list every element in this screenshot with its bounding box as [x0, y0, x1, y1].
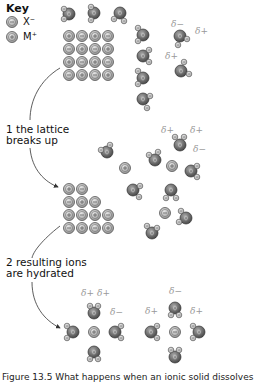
arrow-step1	[30, 148, 58, 187]
key-anion-icon	[7, 17, 18, 28]
anion-icon	[90, 70, 101, 81]
anion-icon	[103, 31, 114, 42]
anion-icon	[77, 210, 88, 221]
anion-icon	[77, 57, 88, 68]
cation-icon	[77, 197, 88, 208]
arrow-step1-to-lattice	[30, 68, 60, 120]
delta-labels-cation: δ+ δ+ δ−	[81, 288, 123, 317]
svg-text:δ+: δ+	[81, 288, 94, 298]
svg-text:δ+: δ+	[165, 51, 178, 61]
cation-icon	[64, 31, 75, 42]
cation-icon	[77, 223, 88, 234]
key-cation-label: M⁺	[23, 31, 37, 42]
svg-text:δ−: δ−	[110, 307, 123, 317]
anion-icon	[103, 57, 114, 68]
cation-icon	[103, 223, 114, 234]
svg-text:δ−: δ−	[169, 286, 182, 296]
anion-icon	[77, 31, 88, 42]
key-title: Key	[6, 3, 29, 14]
svg-text:δ+: δ+	[97, 288, 110, 298]
anion-icon	[90, 44, 101, 55]
cation-icon	[103, 44, 114, 55]
step-1-label: 1 the lattice breaks up	[6, 124, 86, 146]
svg-text:δ−: δ−	[193, 144, 206, 154]
anion-icon	[90, 223, 101, 234]
svg-text:δ−: δ−	[171, 19, 184, 29]
anion-icon	[64, 70, 75, 81]
svg-text:δ+: δ+	[190, 306, 203, 316]
cation-icon	[90, 210, 101, 221]
key-cation-icon	[7, 32, 18, 43]
cation-icon	[64, 184, 75, 195]
initial-lattice	[64, 31, 114, 81]
svg-text:δ+: δ+	[190, 125, 203, 135]
water-and-ions-breaking	[98, 134, 200, 239]
cation-icon	[103, 70, 114, 81]
cation-icon	[64, 57, 75, 68]
svg-text:δ+: δ+	[195, 26, 208, 36]
key-item-cation: M⁺	[20, 31, 37, 42]
cation-icon	[64, 210, 75, 221]
cation-icon	[90, 57, 101, 68]
svg-text:δ+: δ+	[161, 125, 174, 135]
anion-icon	[103, 210, 114, 221]
anion-icon	[77, 184, 88, 195]
cation-icon	[77, 70, 88, 81]
cation-icon	[77, 44, 88, 55]
partial-lattice	[64, 184, 114, 234]
step-2-label: 2 resulting ions are hydrated	[6, 257, 101, 279]
anion-icon	[64, 223, 75, 234]
free-water-1	[174, 30, 190, 48]
free-water-2	[175, 59, 192, 77]
key-item-anion: X⁻	[20, 16, 35, 27]
anion-icon	[64, 197, 75, 208]
cation-icon	[90, 31, 101, 42]
arrow-step2	[32, 282, 60, 328]
key-anion-label: X⁻	[23, 16, 35, 27]
anion-icon	[64, 44, 75, 55]
anion-icon	[90, 197, 101, 208]
figure-caption: Figure 13.5 What happens when an ionic s…	[2, 372, 253, 382]
arrow-step2-to-lattice	[32, 226, 60, 258]
svg-text:δ+: δ+	[145, 306, 158, 316]
